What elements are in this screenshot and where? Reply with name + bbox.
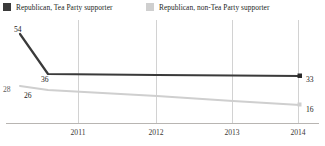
plot-area: 54 36 33 28 26 16 2011 2012 2013 2014 <box>0 16 325 146</box>
x-tick-2012: 2012 <box>148 128 163 137</box>
series-endpoint-tea-party <box>298 74 303 79</box>
legend-swatch-light-icon <box>146 3 154 11</box>
legend-item-tea-party: Republican, Tea Party supporter <box>3 1 113 13</box>
data-label-tea-2011: 36 <box>41 76 49 84</box>
series-line-tea-party <box>20 34 300 76</box>
x-tick-2014: 2014 <box>290 128 305 137</box>
data-label-tea-2014: 33 <box>306 76 314 84</box>
chart-legend: Republican, Tea Party supporter Republic… <box>0 0 325 16</box>
legend-label-non-tea-party: Republican, non-Tea Party supporter <box>159 3 269 12</box>
data-label-non-tea-2011: 26 <box>24 92 32 100</box>
legend-item-non-tea-party: Republican, non-Tea Party supporter <box>146 1 269 13</box>
data-label-non-tea-2010: 28 <box>3 86 11 94</box>
data-label-tea-2010: 54 <box>14 26 22 34</box>
legend-label-tea-party: Republican, Tea Party supporter <box>16 3 113 12</box>
data-label-non-tea-2014: 16 <box>306 106 314 114</box>
chart-container: Republican, Tea Party supporter Republic… <box>0 0 325 146</box>
series-line-non-tea-party <box>20 86 300 105</box>
gridlines <box>79 20 299 123</box>
series-endpoint-non-tea-party <box>298 103 302 107</box>
x-tick-2011: 2011 <box>71 128 86 137</box>
x-tick-2013: 2013 <box>224 128 239 137</box>
legend-swatch-dark-icon <box>3 3 11 11</box>
